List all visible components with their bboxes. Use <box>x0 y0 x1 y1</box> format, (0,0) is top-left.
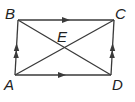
label-c: C <box>115 5 126 22</box>
double-arrow-mark-ab-1 <box>14 43 19 51</box>
label-a: A <box>3 76 14 93</box>
arrow-mark-ad <box>58 72 66 78</box>
double-arrow-mark-dc-1 <box>110 43 115 51</box>
parallelogram-diagram: B C E A D <box>0 0 135 102</box>
arrow-mark-bc <box>62 17 70 23</box>
label-e: E <box>57 28 68 45</box>
double-arrow-mark-ab-2 <box>13 50 18 58</box>
double-arrow-mark-dc-2 <box>109 50 114 58</box>
label-d: D <box>112 76 123 93</box>
label-b: B <box>5 5 15 22</box>
